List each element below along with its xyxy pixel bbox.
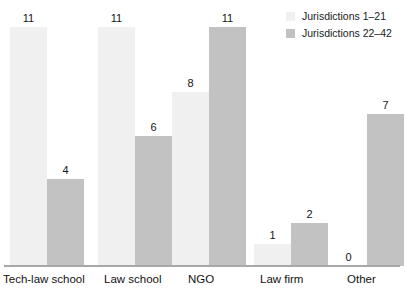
legend-swatch-dark xyxy=(286,29,295,38)
legend-label-light: Jurisdictions 1–21 xyxy=(302,11,386,22)
bar-value-label: 7 xyxy=(367,99,404,111)
bar-value-label: 0 xyxy=(330,251,367,263)
bar-rect xyxy=(47,179,84,266)
bar-rect xyxy=(291,223,328,266)
x-axis-baseline xyxy=(4,265,400,267)
bar-rect xyxy=(10,27,47,266)
bar-rect xyxy=(135,136,172,266)
bar-value-label: 11 xyxy=(10,12,47,24)
bar-rect xyxy=(98,27,135,266)
bar-value-label: 1 xyxy=(254,229,291,241)
bar-rect xyxy=(209,27,246,266)
category-label: Tech-law school xyxy=(3,271,85,287)
bar: 8 xyxy=(172,0,209,266)
bar-value-label: 2 xyxy=(291,208,328,220)
bar-group: 114 xyxy=(10,0,84,266)
bar: 11 xyxy=(10,0,47,266)
bar-rect xyxy=(367,114,404,266)
x-axis-category-labels: Tech-law schoolLaw schoolNGOLaw firmOthe… xyxy=(0,271,406,293)
bar: 11 xyxy=(98,0,135,266)
legend-item-0: Jurisdictions 1–21 xyxy=(286,8,406,25)
legend: Jurisdictions 1–21 Jurisdictions 22–42 xyxy=(286,8,406,42)
legend-label-dark: Jurisdictions 22–42 xyxy=(302,28,392,39)
bar-value-label: 11 xyxy=(209,12,246,24)
bar-value-label: 4 xyxy=(47,164,84,176)
category-label: NGO xyxy=(188,271,214,287)
bar: 6 xyxy=(135,0,172,266)
legend-swatch-light xyxy=(286,12,295,21)
bar-group: 116 xyxy=(98,0,172,266)
category-label: Law firm xyxy=(260,271,303,287)
bar: 4 xyxy=(47,0,84,266)
bar-chart: 1141168111207 Tech-law schoolLaw schoolN… xyxy=(0,0,406,296)
category-label: Other xyxy=(347,271,376,287)
bar-group: 811 xyxy=(172,0,246,266)
bar-value-label: 6 xyxy=(135,121,172,133)
bar: 11 xyxy=(209,0,246,266)
legend-item-1: Jurisdictions 22–42 xyxy=(286,25,406,42)
bar-value-label: 11 xyxy=(98,12,135,24)
bar-value-label: 8 xyxy=(172,77,209,89)
category-label: Law school xyxy=(104,271,162,287)
bar-rect xyxy=(254,244,291,266)
bar-rect xyxy=(172,92,209,266)
